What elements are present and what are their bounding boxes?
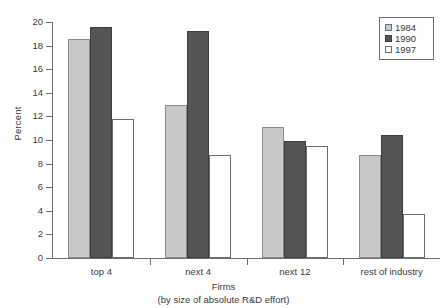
x-axis-group-label: top 4 xyxy=(53,266,150,277)
y-axis-tick-label: 2 xyxy=(0,229,43,238)
y-axis-tick-label: 4 xyxy=(0,206,43,215)
bar-1990-top-4 xyxy=(90,27,112,258)
bar-group xyxy=(150,22,247,258)
y-axis-tick-label: 8 xyxy=(0,159,43,168)
legend-swatch-icon xyxy=(385,24,392,31)
legend-item-label: 1997 xyxy=(395,45,416,55)
y-axis-ticks: 02468101214161820 xyxy=(0,0,52,308)
x-axis-tick xyxy=(247,259,248,265)
bar-1990-next-12 xyxy=(284,141,306,258)
legend-item-1984: 1984 xyxy=(385,22,429,33)
legend: 198419901997 xyxy=(379,17,434,60)
bar-1984-rest-of-industry xyxy=(359,155,381,258)
legend-swatch-icon xyxy=(385,35,392,42)
bar-1997-next-4 xyxy=(209,155,231,258)
legend-item-1990: 1990 xyxy=(385,33,429,44)
y-axis-tick-label: 18 xyxy=(0,41,43,50)
bar-group xyxy=(53,22,150,258)
bar-1984-next-12 xyxy=(262,127,284,258)
x-axis-group-label: rest of industry xyxy=(343,266,440,277)
y-axis-tick-label: 20 xyxy=(0,17,43,26)
bar-1997-top-4 xyxy=(112,119,134,258)
bar-1984-next-4 xyxy=(165,105,187,258)
legend-item-label: 1984 xyxy=(395,23,416,33)
bar-1990-rest-of-industry xyxy=(381,135,403,258)
bar-1997-next-12 xyxy=(306,146,328,258)
x-axis-group-label: next 12 xyxy=(247,266,344,277)
legend-swatch-icon xyxy=(385,46,392,53)
bar-1997-rest-of-industry xyxy=(403,214,425,258)
y-axis-tick-label: 10 xyxy=(0,135,43,144)
x-axis-title: Firms xyxy=(0,281,447,292)
y-axis-tick-label: 12 xyxy=(0,111,43,120)
bar-1990-next-4 xyxy=(187,31,209,258)
legend-item-label: 1990 xyxy=(395,34,416,44)
y-axis-tick-label: 16 xyxy=(0,64,43,73)
x-axis-tick xyxy=(150,259,151,265)
x-axis-tick xyxy=(343,259,344,265)
x-axis-subtitle: (by size of absolute R&D effort) xyxy=(0,294,447,305)
legend-item-1997: 1997 xyxy=(385,44,429,55)
x-axis-group-label: next 4 xyxy=(150,266,247,277)
y-axis-tick-label: 6 xyxy=(0,182,43,191)
bar-chart: Percent 02468101214161820 top 4next 4nex… xyxy=(0,0,447,308)
bar-1984-top-4 xyxy=(68,39,90,258)
y-axis-tick-label: 14 xyxy=(0,88,43,97)
y-axis-tick-label: 0 xyxy=(0,253,43,262)
bar-group xyxy=(247,22,344,258)
